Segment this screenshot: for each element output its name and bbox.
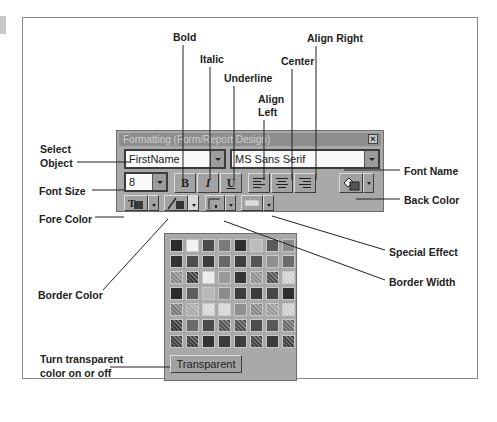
- color-swatch[interactable]: [266, 255, 279, 268]
- color-swatch[interactable]: [282, 255, 295, 268]
- bold-icon: B: [181, 176, 189, 190]
- color-swatch[interactable]: [202, 239, 215, 252]
- color-swatch[interactable]: [250, 255, 263, 268]
- color-swatch[interactable]: [202, 287, 215, 300]
- align-left-button[interactable]: [248, 173, 270, 193]
- toolbar-title: Formatting (Form/Report Design): [123, 133, 270, 146]
- align-center-icon: [276, 178, 288, 188]
- color-swatch[interactable]: [218, 303, 231, 316]
- color-swatch[interactable]: [250, 303, 263, 316]
- color-swatch[interactable]: [250, 319, 263, 332]
- color-swatch[interactable]: [218, 287, 231, 300]
- color-swatch[interactable]: [186, 303, 199, 316]
- color-swatch[interactable]: [266, 319, 279, 332]
- color-swatch[interactable]: [266, 271, 279, 284]
- italic-button[interactable]: I: [197, 173, 219, 193]
- color-swatch[interactable]: [170, 335, 183, 348]
- color-swatch[interactable]: [218, 239, 231, 252]
- color-swatch[interactable]: [250, 287, 263, 300]
- color-swatch[interactable]: [250, 239, 263, 252]
- color-swatch[interactable]: [202, 319, 215, 332]
- callout-font-name: Font Name: [404, 165, 458, 178]
- border-color-button[interactable]: [164, 195, 188, 211]
- color-swatch[interactable]: [282, 319, 295, 332]
- color-swatch[interactable]: [282, 271, 295, 284]
- callout-underline: Underline: [224, 72, 272, 85]
- color-swatch[interactable]: [234, 319, 247, 332]
- color-swatch[interactable]: [234, 271, 247, 284]
- callout-select-object-line1: Select: [40, 143, 71, 156]
- color-swatch[interactable]: [234, 303, 247, 316]
- align-left-icon: [253, 178, 265, 188]
- color-swatch[interactable]: [186, 239, 199, 252]
- paint-bucket-icon: [340, 174, 362, 192]
- fore-color-button[interactable]: T: [124, 195, 148, 211]
- color-swatch[interactable]: [250, 271, 263, 284]
- underline-icon: U: [227, 176, 236, 190]
- select-object-combo[interactable]: FirstName: [124, 149, 226, 169]
- border-width-button[interactable]: [205, 195, 225, 211]
- color-swatch[interactable]: [202, 255, 215, 268]
- underline-button[interactable]: U: [220, 173, 242, 193]
- font-name-combo[interactable]: MS Sans Serif: [230, 149, 380, 169]
- color-swatch[interactable]: [186, 287, 199, 300]
- callout-transparent-line2: color on or off: [40, 367, 111, 380]
- color-swatch[interactable]: [202, 303, 215, 316]
- callout-font-size: Font Size: [39, 185, 86, 198]
- color-swatch[interactable]: [218, 255, 231, 268]
- color-swatch[interactable]: [170, 319, 183, 332]
- color-swatch[interactable]: [282, 287, 295, 300]
- color-swatch[interactable]: [186, 255, 199, 268]
- align-right-button[interactable]: [294, 173, 316, 193]
- border-width-dropdown[interactable]: [225, 195, 236, 211]
- color-swatch[interactable]: [234, 239, 247, 252]
- close-button[interactable]: ×: [368, 134, 378, 144]
- color-swatch[interactable]: [266, 287, 279, 300]
- color-swatch[interactable]: [234, 255, 247, 268]
- callout-border-width: Border Width: [389, 276, 455, 289]
- align-center-button[interactable]: [271, 173, 293, 193]
- special-effect-button[interactable]: [241, 195, 263, 211]
- chevron-down-icon[interactable]: [364, 151, 378, 167]
- page-corner-mark: [0, 16, 6, 34]
- bold-button[interactable]: B: [174, 173, 196, 193]
- special-effect-dropdown[interactable]: [263, 195, 274, 211]
- color-swatch[interactable]: [170, 303, 183, 316]
- border-color-dropdown[interactable]: [188, 195, 199, 211]
- color-swatch[interactable]: [170, 271, 183, 284]
- color-swatch[interactable]: [234, 287, 247, 300]
- color-swatch[interactable]: [218, 271, 231, 284]
- color-swatch[interactable]: [202, 271, 215, 284]
- color-swatch[interactable]: [282, 303, 295, 316]
- color-swatch[interactable]: [250, 335, 263, 348]
- back-color-dropdown[interactable]: [363, 173, 374, 193]
- color-swatch[interactable]: [218, 319, 231, 332]
- color-swatch[interactable]: [186, 335, 199, 348]
- transparent-button[interactable]: Transparent: [170, 355, 242, 373]
- callout-center: Center: [281, 55, 314, 68]
- color-swatch[interactable]: [266, 303, 279, 316]
- chevron-down-icon[interactable]: [210, 151, 224, 167]
- formatting-toolbar: Formatting (Form/Report Design) × FirstN…: [116, 130, 384, 212]
- fore-color-dropdown[interactable]: [148, 195, 159, 211]
- color-swatch[interactable]: [202, 335, 215, 348]
- color-swatch[interactable]: [234, 335, 247, 348]
- color-swatch[interactable]: [218, 335, 231, 348]
- chevron-down-icon[interactable]: [152, 174, 166, 190]
- callout-italic: Italic: [200, 53, 224, 66]
- callout-transparent-line1: Turn transparent: [40, 353, 123, 366]
- color-swatch[interactable]: [186, 271, 199, 284]
- font-size-combo[interactable]: 8: [124, 172, 168, 192]
- color-swatch[interactable]: [282, 239, 295, 252]
- toolbar-titlebar[interactable]: Formatting (Form/Report Design) ×: [119, 133, 381, 146]
- back-color-button[interactable]: [339, 173, 363, 193]
- color-swatch[interactable]: [170, 255, 183, 268]
- color-swatch[interactable]: [266, 239, 279, 252]
- callout-select-object-line2: Object: [40, 157, 73, 170]
- color-swatch[interactable]: [266, 335, 279, 348]
- color-swatch[interactable]: [170, 239, 183, 252]
- color-swatch[interactable]: [170, 287, 183, 300]
- color-swatch[interactable]: [282, 335, 295, 348]
- color-swatch[interactable]: [186, 319, 199, 332]
- callout-special-effect: Special Effect: [389, 246, 458, 259]
